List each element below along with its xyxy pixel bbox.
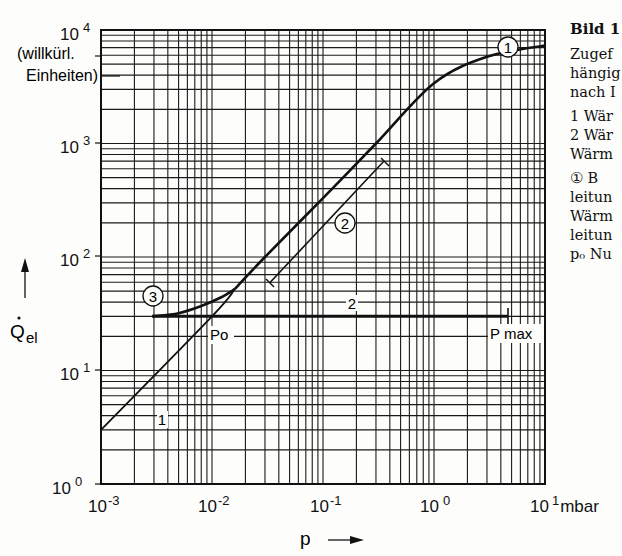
x-axis-label: p <box>300 528 364 549</box>
caption-line: leitun <box>570 190 622 209</box>
x-tick-10e0: 100 <box>420 493 450 516</box>
x-tick-10e1: 101mbar <box>530 493 599 516</box>
log-log-chart: 1 2 3 2 1 Po P max 104 103 102 101 100 (… <box>0 0 622 556</box>
y-tick-labels: 104 103 102 101 100 <box>52 20 90 498</box>
label-circled-1: 1 <box>498 37 518 57</box>
caption-line: p₀ Nu <box>570 247 622 266</box>
label-circled-2: 2 <box>335 213 355 233</box>
caption-title: Bild 1 <box>570 22 622 37</box>
y-tick-10e3: 103 <box>60 133 90 157</box>
caption-line: leitun <box>570 228 622 247</box>
up-arrow-icon <box>21 258 29 272</box>
y-tick-10e4: 104 <box>60 20 90 44</box>
caption-line: 2 Wär <box>570 128 622 147</box>
svg-text:2: 2 <box>341 215 349 232</box>
y-tick-10e0: 100 <box>52 474 82 498</box>
svg-text:1: 1 <box>504 39 512 56</box>
caption-line: ① B <box>570 171 622 190</box>
x-tick-10e-2: 10-2 <box>198 493 229 516</box>
label-pmax: P max <box>490 325 533 342</box>
right-arrow-icon <box>350 536 364 544</box>
label-line-1: 1 <box>158 411 166 428</box>
y-unit-line2: Einheiten) <box>26 67 98 84</box>
svg-text:3: 3 <box>149 288 157 305</box>
caption-line: Wärm <box>570 209 622 228</box>
svg-text:el: el <box>26 329 38 346</box>
caption-line: 1 Wär <box>570 109 622 128</box>
caption-line: Zugef <box>570 47 622 66</box>
y-unit-line1: (willkürl. <box>17 45 75 62</box>
y-tick-10e1: 101 <box>60 360 90 384</box>
y-tick-10e2: 102 <box>60 246 90 270</box>
caption-line: hängig <box>570 66 622 85</box>
label-p0: Po <box>210 326 228 343</box>
svg-text:p: p <box>300 528 311 549</box>
figure-caption: Bild 1 Zugef hängig nach I 1 Wär 2 Wär W… <box>570 22 622 266</box>
curve-circled-3 <box>152 289 234 316</box>
x-tick-labels: 10-3 10-2 10-1 100 101mbar <box>88 493 599 516</box>
label-circled-3: 3 <box>143 286 163 306</box>
y-axis-label: Q el <box>10 258 38 346</box>
x-tick-10e-3: 10-3 <box>88 493 119 516</box>
svg-text:Q: Q <box>10 321 25 342</box>
x-tick-10e-1: 10-1 <box>310 493 341 516</box>
caption-line: nach I <box>570 85 622 104</box>
label-line-2: 2 <box>348 295 356 312</box>
dot-accent <box>17 316 20 319</box>
caption-line: Wärm <box>570 147 622 166</box>
